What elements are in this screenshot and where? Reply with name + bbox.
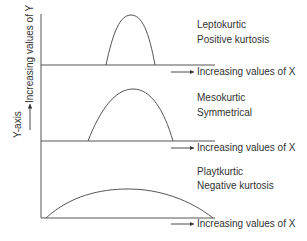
- x-label-1: Increasing values of X: [197, 66, 295, 78]
- mesokurtic-subtitle: Symmetrical: [197, 107, 252, 119]
- leptokurtic-curve: [106, 15, 155, 65]
- y-axis-title: Y-axis: [12, 111, 24, 138]
- leptokurtic-title: Leptokurtic: [197, 19, 246, 31]
- x-label-2: Increasing values of X: [197, 142, 295, 154]
- mesokurtic-curve: [88, 89, 173, 141]
- platykurtic-title: Playtkurtic: [197, 166, 243, 178]
- platykurtic-subtitle: Negative kurtosis: [197, 180, 274, 192]
- x-label-3: Increasing values of X: [197, 218, 295, 230]
- platykurtic-curve: [46, 189, 213, 218]
- mesokurtic-title: Mesokurtic: [197, 92, 245, 104]
- leptokurtic-subtitle: Positive kurtosis: [197, 34, 269, 46]
- y-axis-direction-label: Increasing values of Y: [24, 5, 36, 103]
